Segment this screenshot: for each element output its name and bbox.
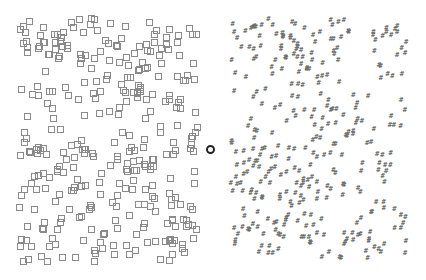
square-element: [54, 166, 61, 173]
square-element: [112, 217, 119, 224]
hash-element: #: [294, 113, 298, 120]
square-element: [52, 198, 59, 205]
hash-element: #: [380, 152, 384, 159]
hash-element: #: [284, 169, 288, 176]
square-element: [144, 64, 151, 71]
hash-element: #: [339, 255, 343, 262]
square-element: [81, 79, 88, 86]
hash-element: #: [261, 231, 265, 238]
square-element: [74, 141, 81, 148]
hash-element: #: [308, 162, 312, 169]
square-element: [107, 20, 114, 27]
hash-element: #: [260, 243, 264, 250]
square-element: [190, 235, 197, 242]
hash-element: #: [306, 177, 310, 184]
square-element: [123, 54, 130, 61]
square-element: [142, 163, 149, 170]
hash-element: #: [392, 122, 396, 129]
hash-element: #: [364, 248, 368, 255]
hash-element: #: [399, 123, 403, 130]
square-element: [40, 24, 47, 31]
hash-element: #: [318, 135, 322, 142]
hash-element: #: [263, 145, 267, 152]
square-element: [26, 18, 33, 25]
square-element: [134, 90, 141, 97]
hash-element: #: [350, 230, 354, 237]
hash-element: #: [269, 166, 273, 173]
hash-element: #: [242, 171, 246, 178]
hash-element: #: [287, 156, 291, 163]
square-element: [54, 226, 61, 233]
square-element: [130, 177, 137, 184]
square-element: [147, 108, 154, 115]
square-element: [166, 26, 173, 33]
square-element: [93, 78, 100, 85]
hash-element: #: [269, 154, 273, 161]
hash-element: #: [255, 209, 259, 216]
hash-element: #: [392, 225, 396, 232]
hash-element: #: [329, 36, 333, 43]
hash-element: #: [383, 162, 387, 169]
hash-element: #: [388, 122, 392, 129]
hash-element: #: [293, 190, 297, 197]
hash-element: #: [311, 150, 315, 157]
hash-element: #: [320, 126, 324, 133]
hash-element: #: [322, 232, 326, 239]
square-element: [25, 256, 32, 263]
hash-element: #: [307, 184, 311, 191]
square-element: [125, 62, 132, 69]
hash-element: #: [258, 152, 262, 159]
hash-element: #: [399, 97, 403, 104]
square-element: [94, 27, 101, 34]
hash-element: #: [336, 57, 340, 64]
hash-element: #: [254, 54, 258, 61]
hash-element: #: [288, 35, 292, 42]
square-element: [172, 147, 179, 154]
square-element: [123, 98, 130, 105]
hash-element: #: [312, 107, 316, 114]
hash-element: #: [326, 121, 330, 128]
square-element: [115, 111, 122, 118]
hash-element: #: [282, 222, 286, 229]
square-element: [60, 149, 67, 156]
square-element: [180, 77, 187, 84]
hash-element: #: [286, 212, 290, 219]
hash-element: #: [403, 107, 407, 114]
hash-element: #: [320, 115, 324, 122]
hash-element: #: [297, 168, 301, 175]
hash-element: #: [330, 106, 334, 113]
hash-element: #: [270, 130, 274, 137]
square-element: [74, 176, 81, 183]
hash-element: #: [318, 29, 322, 36]
square-element: [49, 235, 56, 242]
fixation-circle-icon: [206, 145, 215, 154]
hash-element: #: [366, 93, 370, 100]
square-element: [52, 39, 59, 46]
square-element: [176, 52, 183, 59]
square-element: [170, 139, 177, 146]
square-element: [87, 202, 94, 209]
hash-element: #: [310, 174, 314, 181]
hash-element: #: [257, 164, 261, 171]
square-element: [140, 144, 147, 151]
square-element: [142, 115, 149, 122]
square-element: [80, 29, 87, 36]
hash-element: #: [333, 141, 337, 148]
square-element: [91, 247, 98, 254]
hash-element: #: [325, 183, 329, 190]
hash-element: #: [366, 255, 370, 262]
square-element: [56, 53, 63, 60]
square-element: [191, 180, 198, 187]
square-element: [111, 251, 118, 258]
hash-element: #: [243, 28, 247, 35]
square-element: [27, 149, 34, 156]
square-element: [106, 108, 113, 115]
hash-element: #: [331, 48, 335, 55]
hash-element: #: [251, 163, 255, 170]
square-element: [17, 152, 24, 159]
hash-element: #: [284, 189, 288, 196]
hash-element: #: [230, 21, 234, 28]
hash-element: #: [270, 71, 274, 78]
square-element: [149, 91, 156, 98]
square-element: [119, 129, 126, 136]
